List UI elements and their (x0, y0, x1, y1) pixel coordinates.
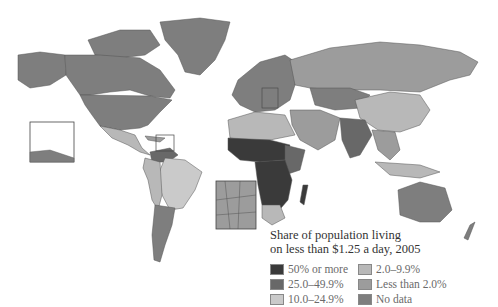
region-se-asia (372, 130, 400, 160)
region-north-africa (228, 112, 295, 140)
legend-item-50-plus: 50% or more (270, 263, 358, 275)
region-sahel (228, 138, 290, 162)
legend-title: Share of population living on less than … (270, 228, 498, 256)
region-india (340, 118, 372, 158)
map-legend: Share of population living on less than … (270, 228, 498, 305)
region-usa (80, 95, 172, 130)
region-russia (290, 42, 478, 92)
region-europe (232, 55, 300, 112)
legend-swatch (358, 264, 372, 275)
legend-item-10-25: 10.0–24.9% (270, 293, 358, 305)
legend-swatch (270, 294, 284, 305)
region-middle-east (290, 110, 340, 150)
legend-item-25-50: 25.0–49.9% (270, 278, 358, 290)
legend-swatch (270, 264, 284, 275)
region-caribbean (145, 136, 165, 142)
region-brazil (158, 158, 202, 210)
inset-balkans (216, 181, 256, 229)
legend-swatch (358, 294, 372, 305)
region-madagascar (300, 185, 308, 205)
region-argentina (152, 205, 175, 262)
region-mexico (100, 126, 150, 155)
legend-swatch (270, 279, 284, 290)
legend-item-lt-2: Less than 2.0% (358, 278, 478, 290)
region-greenland (160, 18, 230, 75)
legend-item-no-data: No data (358, 293, 478, 305)
region-canada (65, 55, 175, 98)
region-andes (143, 158, 162, 210)
legend-swatch (358, 279, 372, 290)
region-alaska (18, 52, 66, 88)
region-indonesia (375, 162, 440, 178)
region-australia (398, 182, 452, 222)
legend-item-2-10: 2.0–9.9% (358, 263, 478, 275)
region-southern-africa (262, 205, 285, 225)
region-canada-islands (88, 30, 160, 58)
